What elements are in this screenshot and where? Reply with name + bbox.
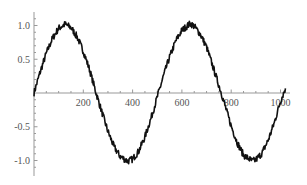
data-line bbox=[34, 21, 285, 163]
x-axis: 2004006008001000 bbox=[34, 90, 291, 109]
x-axis-ticks: 2004006008001000 bbox=[46, 90, 290, 109]
x-tick-label: 400 bbox=[125, 97, 140, 108]
y-tick-label: 0.5 bbox=[18, 54, 31, 65]
x-tick-label: 200 bbox=[76, 97, 91, 108]
y-tick-label: -1.0 bbox=[14, 155, 30, 166]
y-tick-label: -0.5 bbox=[14, 121, 30, 132]
line-chart: 1.00.5-0.5-1.0 2004006008001000 bbox=[0, 0, 307, 185]
series bbox=[34, 21, 285, 163]
y-tick-label: 1.0 bbox=[18, 20, 31, 31]
x-tick-label: 600 bbox=[174, 97, 189, 108]
